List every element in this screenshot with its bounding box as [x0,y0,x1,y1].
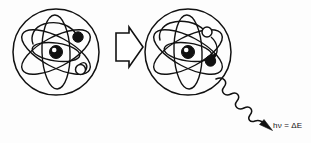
atomic-emission-figure: hν = ΔE [0,0,311,143]
left-electron-track [32,23,78,44]
right-nucleus-highlight [184,48,189,53]
right-electron-vacancy [202,27,212,37]
right-atom [145,9,231,95]
left-electron-vacancy [76,65,86,75]
left-nucleus [50,46,63,59]
right-electron-ground [205,56,215,66]
right-nucleus [182,46,195,59]
transition-arrow [116,27,143,67]
photon-energy-label-text: hν = ΔE [273,121,302,130]
left-nucleus-core [50,46,63,59]
right-vacancy-track [159,21,204,40]
left-nucleus-highlight [52,48,57,53]
figure-canvas [0,0,311,143]
left-atom [13,9,99,95]
photon-wave-path [216,78,266,124]
left-electron-excited [73,32,83,42]
right-nucleus-core [182,46,195,59]
emitted-photon [216,78,273,130]
process-arrow-shape [116,27,143,67]
photon-energy-label: hν = ΔE [273,121,302,131]
